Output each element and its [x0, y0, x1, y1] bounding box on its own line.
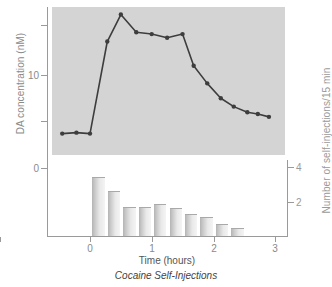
x-axis-tick-label-1: 1 [142, 243, 162, 254]
data-point [180, 32, 184, 36]
data-point [105, 39, 109, 43]
data-point [232, 104, 236, 108]
data-point [256, 112, 260, 116]
x-axis-title: Time (hours) [47, 255, 287, 266]
data-point [134, 30, 138, 34]
data-point [245, 110, 249, 114]
data-point [267, 115, 271, 119]
x-axis-tick-label-3: 3 [265, 243, 285, 254]
figure-caption: Cocaine Self-Injections [40, 270, 292, 281]
x-axis-tick-0 [90, 237, 91, 242]
da-concentration-markers [60, 12, 271, 135]
data-point [165, 36, 169, 40]
data-point [150, 32, 154, 36]
data-point [60, 131, 64, 135]
data-point [119, 12, 123, 16]
data-point [191, 63, 195, 67]
data-point [219, 96, 223, 100]
x-axis-tick-label-0: 0 [80, 243, 100, 254]
x-axis-tick-2 [214, 237, 215, 242]
da-concentration-polyline [62, 15, 269, 134]
x-axis-tick-1 [152, 237, 153, 242]
data-point [74, 130, 78, 134]
x-axis-tick-spacer [0, 237, 1, 242]
line-series-da-concentration [0, 0, 331, 237]
left-axis-title: DA concentration (nM) [15, 29, 26, 139]
right-axis-title: Number of self-injections/15 min [321, 61, 332, 221]
x-axis-tick-3 [275, 237, 276, 242]
x-axis-tick-label-2: 2 [204, 243, 224, 254]
data-point [88, 131, 92, 135]
data-point [205, 81, 209, 85]
